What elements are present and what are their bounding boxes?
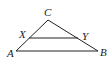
label-a: A (6, 47, 14, 59)
triangle-diagram: C X Y A B (0, 0, 112, 63)
segment-cb (48, 20, 98, 51)
label-b: B (100, 46, 107, 58)
label-c: C (44, 6, 52, 18)
label-y: Y (82, 30, 90, 42)
label-x: X (18, 28, 27, 40)
